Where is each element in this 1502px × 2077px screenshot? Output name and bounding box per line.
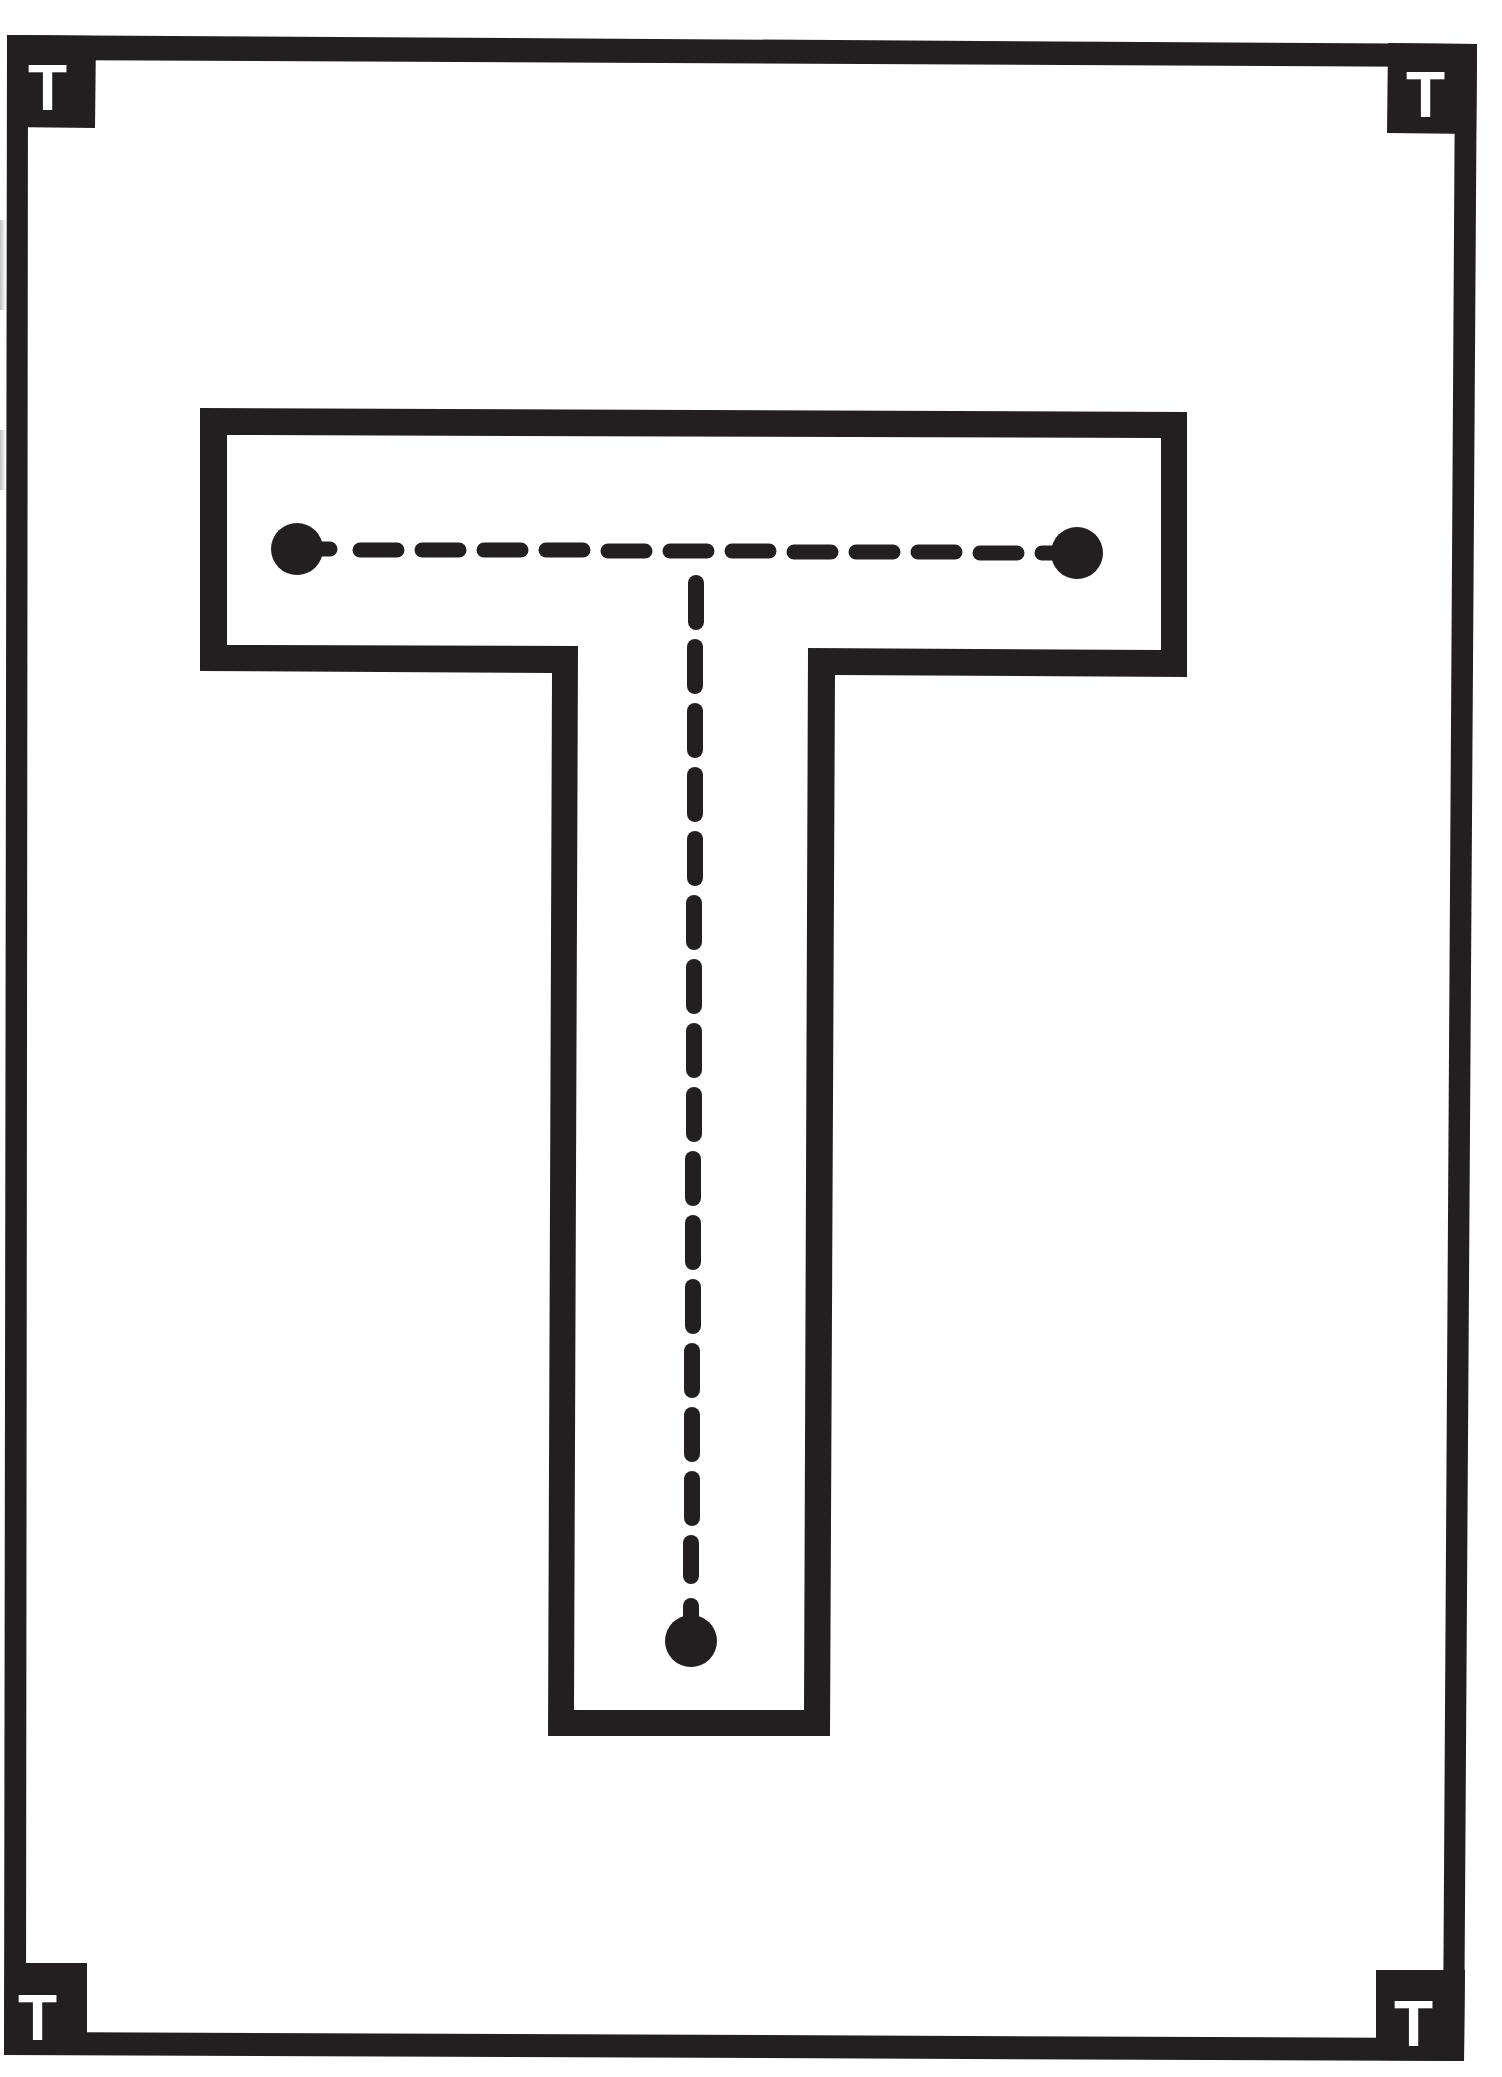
corner-badge-bottom-left: T xyxy=(4,1963,87,2055)
horizontal-dashes xyxy=(360,550,1017,553)
tracing-stroke-vertical xyxy=(665,583,717,1667)
vertical-dashes xyxy=(691,583,696,1576)
badge-letter: T xyxy=(18,1982,57,2054)
corner-badge-bottom-right: T xyxy=(1376,1970,1465,2061)
badge-letter: T xyxy=(1394,1988,1433,2060)
tracing-stroke-horizontal xyxy=(271,523,1103,579)
corner-badge-top-left: T xyxy=(7,35,96,128)
page-border-frame xyxy=(4,35,1477,2061)
badge-letter: T xyxy=(28,52,67,124)
end-dot-right xyxy=(1051,527,1103,579)
badge-letter: T xyxy=(1406,59,1445,131)
corner-badge-top-right: T xyxy=(1387,43,1477,134)
end-dot-bottom xyxy=(665,1615,717,1667)
letter-tracing-worksheet: T T T T xyxy=(0,0,1502,2077)
